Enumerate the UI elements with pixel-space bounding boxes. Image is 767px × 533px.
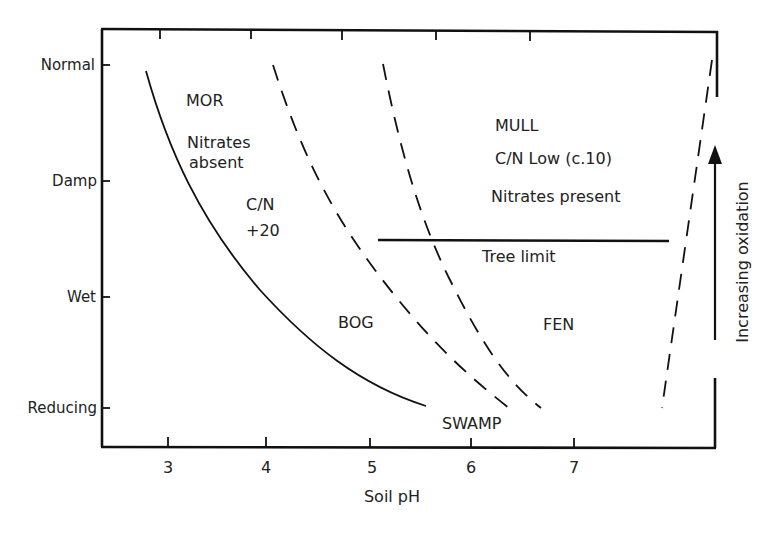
label-cn-high-1: C/N [246,195,275,214]
region-mor: MOR [186,91,224,110]
oxidation-arrow [708,145,722,340]
bog-boundary-curve [273,65,509,408]
x-tick-6: 6 [466,458,476,477]
increasing-oxidation-label: Increasing oxidation [733,181,752,343]
label-nitrates-absent-1: Nitrates [187,133,251,152]
label-nitrates-present: Nitrates present [491,187,620,206]
mor-boundary-curve [146,71,426,406]
y-tick-normal: Normal [41,56,95,74]
upper-ph-boundary-line [662,60,712,408]
label-nitrates-absent-2: absent [189,153,244,172]
label-cn-high-2: +20 [246,221,280,240]
y-tick-reducing: Reducing [28,399,97,417]
bottom-axis [101,447,716,448]
soil-ph-oxidation-diagram: Normal Damp Wet Reducing 3 4 5 6 7 Soil … [0,0,767,533]
region-fen: FEN [543,315,574,334]
label-tree-limit: Tree limit [481,247,556,266]
x-tick-4: 4 [261,458,271,477]
top-border [101,29,718,32]
x-tick-3: 3 [163,458,173,477]
x-axis-title: Soil pH [364,487,420,506]
region-swamp: SWAMP [442,414,502,433]
x-tick-5: 5 [367,458,377,477]
arrow-up-icon [708,145,722,164]
tree-limit-line [378,240,669,241]
region-mull: MULL [495,116,538,135]
y-tick-damp: Damp [52,172,97,190]
region-bog: BOG [338,313,374,332]
y-tick-wet: Wet [67,288,96,306]
label-cn-low: C/N Low (c.10) [495,149,612,168]
x-tick-7: 7 [569,458,579,477]
